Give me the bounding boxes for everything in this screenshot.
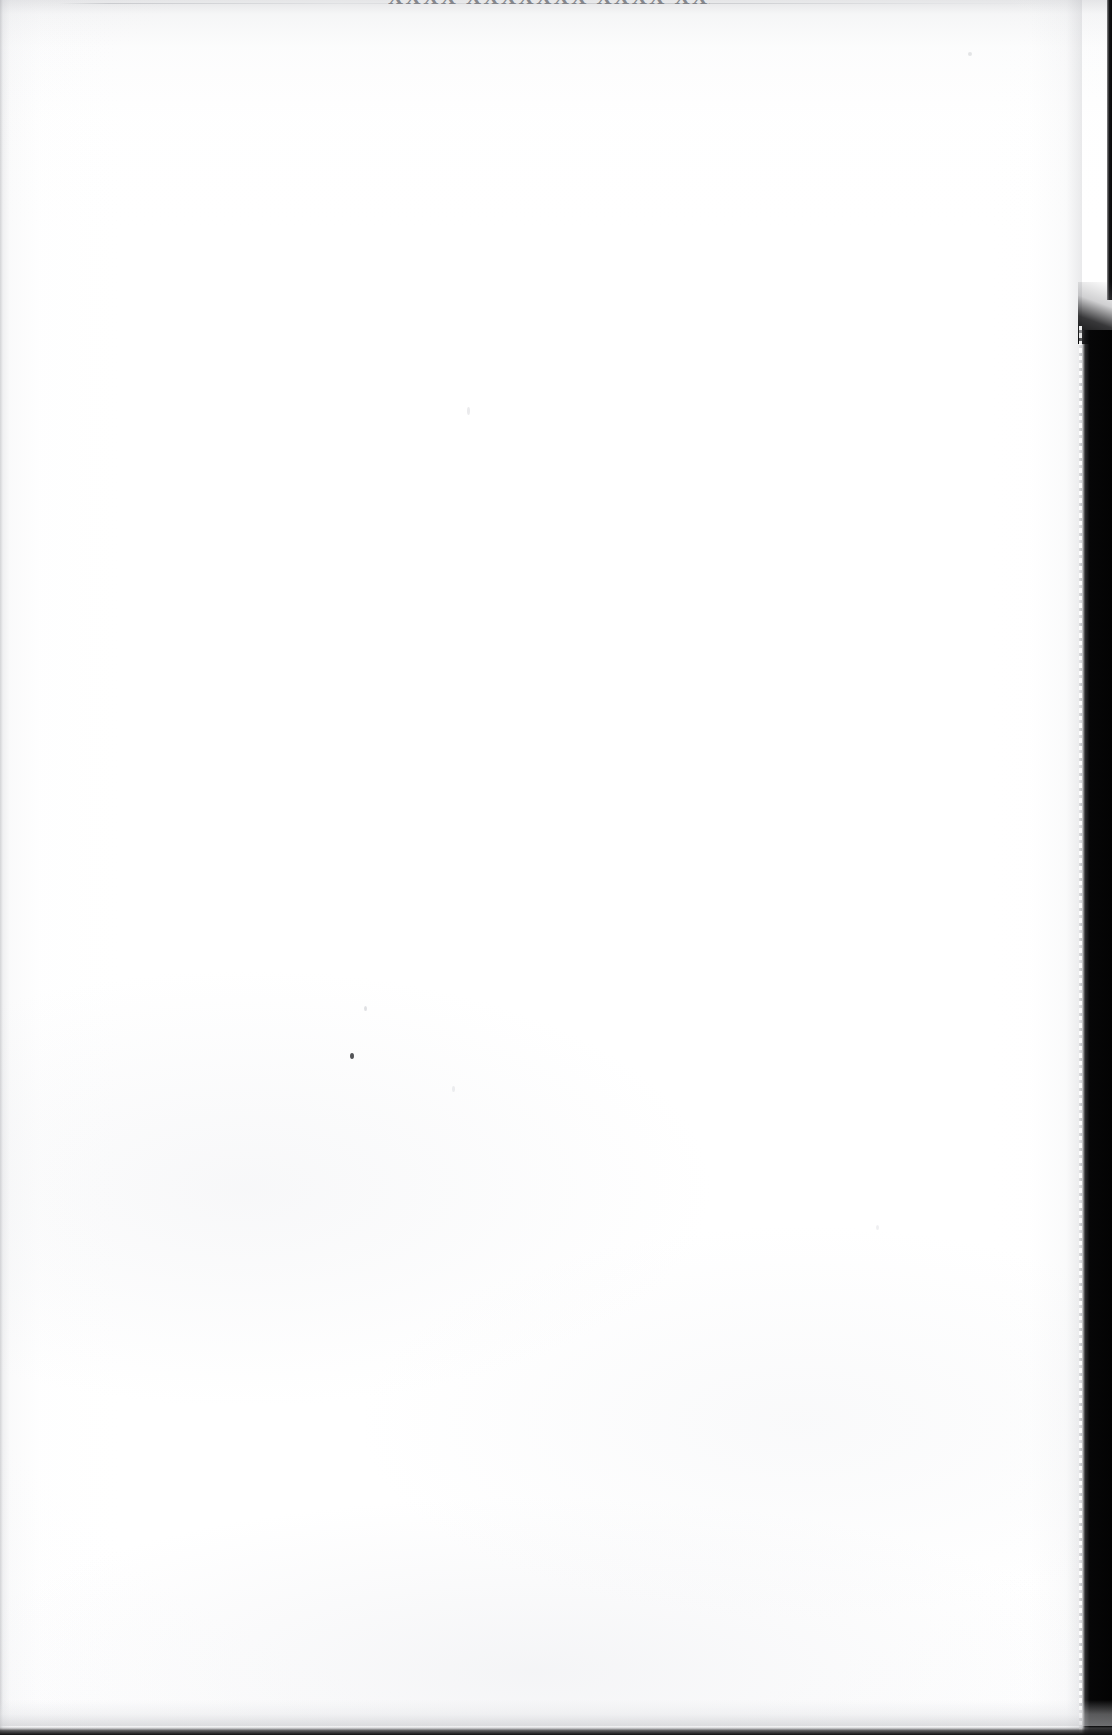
- paper-surface: [0, 0, 1112, 1735]
- scanned-page: XXXX XXXXXXX XXXX XXXXX: [0, 0, 1112, 1735]
